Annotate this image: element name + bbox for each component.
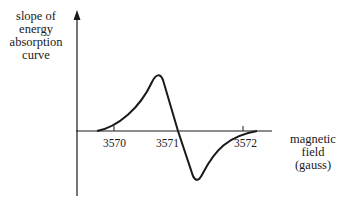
x-axis-label: magnetic field (gauss) [280,133,346,172]
x-label-line: (gauss) [280,159,346,172]
x-tick-label-3570: 3570 [103,137,126,149]
x-tick-label-3571: 3571 [156,137,179,149]
y-label-line: curve [4,49,68,62]
x-tick-label-3572: 3572 [234,137,257,149]
y-axis-label: slope of energy absorption curve [4,10,68,62]
derivative-curve [97,75,257,180]
y-axis-arrow-icon [74,10,81,20]
